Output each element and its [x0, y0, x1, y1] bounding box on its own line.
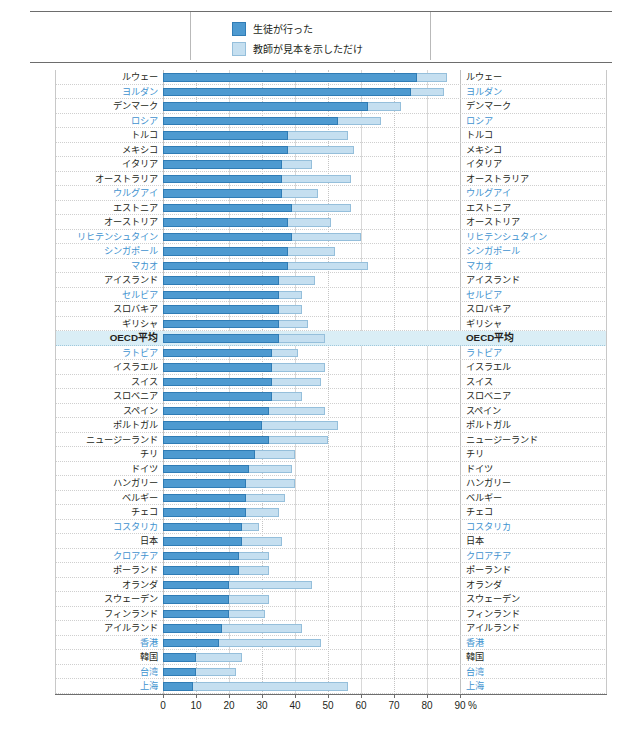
chart-row: ニュージーランドニュージーランド	[55, 433, 607, 448]
bar-students	[163, 204, 292, 213]
legend-label-teacher-only: 教師が見本を示しただけ	[253, 41, 363, 56]
row-label-right: ドイツ	[460, 462, 607, 477]
bar-students	[163, 407, 269, 416]
row-label-right: フィンランド	[460, 607, 607, 622]
row-bars	[163, 157, 460, 172]
bar-students	[163, 117, 338, 126]
chart-row: スペインスペイン	[55, 404, 607, 419]
bar-students	[163, 639, 219, 648]
row-label-right: シンガポール	[460, 244, 607, 259]
row-bars	[163, 317, 460, 332]
bar-students	[163, 624, 222, 633]
row-label-right: メキシコ	[460, 143, 607, 158]
row-label-left: 香港	[55, 636, 163, 651]
row-label-left: クロアチア	[55, 549, 163, 564]
chart-row: ウルグアイウルグアイ	[55, 186, 607, 201]
row-label-right: チェコ	[460, 505, 607, 520]
cut-off-header-strip: —— ——— ———— —— ———————— ———— ——————————	[0, 0, 642, 9]
row-bars	[163, 201, 460, 216]
row-label-left: チェコ	[55, 505, 163, 520]
bar-students	[163, 88, 411, 97]
row-bars	[163, 476, 460, 491]
row-label-right: チリ	[460, 447, 607, 462]
row-label-right: 台湾	[460, 665, 607, 680]
bar-students	[163, 682, 193, 691]
legend-label-students: 生徒が行った	[253, 21, 313, 36]
row-label-left: ベルギー	[55, 491, 163, 506]
row-label-left: 韓国	[55, 650, 163, 665]
chart-row: ラトビアラトビア	[55, 346, 607, 361]
chart-row: 台湾台湾	[55, 665, 607, 680]
bar-students	[163, 479, 246, 488]
row-label-right: ロシア	[460, 114, 607, 129]
bar-students	[163, 436, 269, 445]
row-bars	[163, 447, 460, 462]
bar-students	[163, 465, 249, 474]
row-label-right: ウルグアイ	[460, 186, 607, 201]
bar-students	[163, 262, 288, 271]
row-bars	[163, 215, 460, 230]
bar-students	[163, 653, 196, 662]
row-bars	[163, 99, 460, 114]
chart-row: コスタリカコスタリカ	[55, 520, 607, 535]
chart-row: 香港香港	[55, 636, 607, 651]
row-label-left: アイルランド	[55, 621, 163, 636]
bar-students	[163, 160, 282, 169]
row-label-right: スロベニア	[460, 389, 607, 404]
x-tick-60	[361, 694, 362, 698]
chart-row: マカオマカオ	[55, 259, 607, 274]
row-label-right: スウェーデン	[460, 592, 607, 607]
chart-row: ドイツドイツ	[55, 462, 607, 477]
bar-students	[163, 392, 272, 401]
row-label-right: 香港	[460, 636, 607, 651]
row-label-right: コスタリカ	[460, 520, 607, 535]
row-label-right: クロアチア	[460, 549, 607, 564]
row-label-right: オーストラリア	[460, 172, 607, 187]
row-label-left: イタリア	[55, 157, 163, 172]
row-label-left: アイスランド	[55, 273, 163, 288]
x-tick-label-0: 0	[160, 700, 166, 711]
chart-plot-panel: ルウェールウェーヨルダンヨルダンデンマークデンマークロシアロシアトルコトルコメキ…	[55, 70, 607, 694]
row-bars	[163, 592, 460, 607]
row-label-right: 上海	[460, 679, 607, 694]
bar-students	[163, 146, 288, 155]
row-label-right: ポーランド	[460, 563, 607, 578]
x-tick-label-20: 20	[223, 700, 234, 711]
row-label-right: スロバキア	[460, 302, 607, 317]
row-label-right: ベルギー	[460, 491, 607, 506]
row-label-left: スペイン	[55, 404, 163, 419]
row-label-left: ウルグアイ	[55, 186, 163, 201]
bar-students	[163, 349, 272, 358]
row-bars	[163, 288, 460, 303]
bar-students	[163, 334, 279, 343]
row-bars	[163, 563, 460, 578]
row-label-right: アイルランド	[460, 621, 607, 636]
bar-students	[163, 537, 242, 546]
bar-students	[163, 102, 368, 111]
row-label-left: スロバキア	[55, 302, 163, 317]
row-label-left: ニュージーランド	[55, 433, 163, 448]
row-label-right: スイス	[460, 375, 607, 390]
bar-students	[163, 131, 288, 140]
row-bars	[163, 114, 460, 129]
chart-row: イスラエルイスラエル	[55, 360, 607, 375]
chart-row: ギリシャギリシャ	[55, 317, 607, 332]
chart-row: クロアチアクロアチア	[55, 549, 607, 564]
row-bars	[163, 549, 460, 564]
bar-students	[163, 247, 288, 256]
row-bars	[163, 404, 460, 419]
x-tick-label-60: 60	[355, 700, 366, 711]
row-bars	[163, 186, 460, 201]
row-bars	[163, 607, 460, 622]
legend-divider-left	[190, 12, 191, 60]
row-label-left: メキシコ	[55, 143, 163, 158]
row-bars	[163, 259, 460, 274]
x-tick-label-90: 90	[454, 700, 465, 711]
chart-row: エストニアエストニア	[55, 201, 607, 216]
row-bars	[163, 462, 460, 477]
bar-students	[163, 523, 242, 532]
bar-students	[163, 363, 272, 372]
row-label-left: コスタリカ	[55, 520, 163, 535]
chart-row: メキシコメキシコ	[55, 143, 607, 158]
row-label-right: エストニア	[460, 201, 607, 216]
